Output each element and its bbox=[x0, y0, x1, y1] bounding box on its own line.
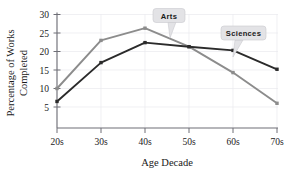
series-sciences-markers bbox=[55, 41, 278, 103]
callout-sciences[interactable]: Sciences bbox=[221, 26, 266, 57]
x-tick-label: 60s bbox=[226, 137, 240, 147]
line-chart: 5 10 15 20 25 30 20s 30s 40s 50s 60s 70s… bbox=[0, 0, 285, 176]
y-tick-label: 15 bbox=[40, 66, 50, 76]
callout-arts-label: Arts bbox=[161, 12, 177, 21]
series-sciences bbox=[55, 41, 278, 103]
y-tick-label: 20 bbox=[40, 47, 50, 57]
chart-container: 5 10 15 20 25 30 20s 30s 40s 50s 60s 70s… bbox=[0, 0, 285, 176]
x-tick-label: 30s bbox=[94, 137, 108, 147]
x-tick-label: 40s bbox=[138, 137, 152, 147]
y-axis-title-line2: Completed bbox=[18, 49, 29, 96]
x-tick-marks bbox=[57, 128, 277, 133]
y-tick-label: 25 bbox=[40, 29, 50, 39]
x-tick-labels: 20s 30s 40s 50s 60s 70s bbox=[50, 137, 284, 147]
callout-arts-tail bbox=[168, 22, 176, 38]
x-tick-label: 50s bbox=[182, 137, 196, 147]
x-axis-title: Age Decade bbox=[141, 157, 193, 168]
callout-sciences-label: Sciences bbox=[226, 29, 261, 38]
x-tick-label: 20s bbox=[50, 137, 64, 147]
y-tick-label: 5 bbox=[44, 103, 49, 113]
y-tick-label: 30 bbox=[40, 10, 50, 20]
y-tick-label: 10 bbox=[40, 84, 50, 94]
y-axis-title-line1: Percentage of Works bbox=[5, 29, 16, 116]
x-tick-label: 70s bbox=[270, 137, 284, 147]
y-tick-labels: 5 10 15 20 25 30 bbox=[40, 10, 50, 113]
